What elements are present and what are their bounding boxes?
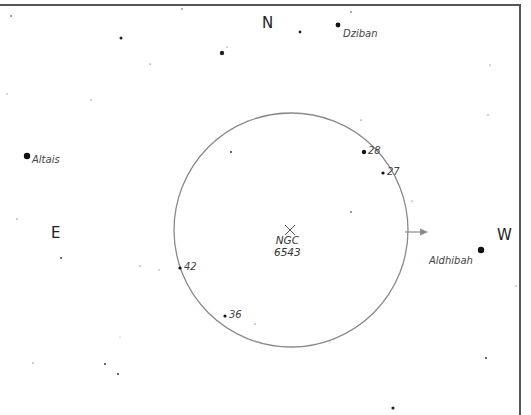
target-name-line2: 6543 <box>274 246 301 258</box>
field-star <box>60 257 62 259</box>
named-star-dziban <box>336 23 341 28</box>
field-star <box>360 119 361 120</box>
field-star <box>159 270 160 271</box>
field-star <box>350 211 352 213</box>
field-star <box>117 373 119 375</box>
star-label-dziban: Dziban <box>343 28 378 39</box>
star-number-label-42: 42 <box>184 261 197 272</box>
field-star <box>7 94 8 95</box>
direction-north-label: N <box>262 14 273 32</box>
field-star <box>485 357 487 359</box>
field-star <box>120 37 123 40</box>
field-stars <box>7 8 517 409</box>
field-star <box>139 265 140 266</box>
star-label-aldhibah: Aldhibah <box>429 255 473 266</box>
field-star <box>412 201 413 202</box>
field-star <box>90 99 91 100</box>
field-star <box>149 63 150 64</box>
field-star <box>10 15 12 17</box>
star-number-label-27: 27 <box>387 166 400 177</box>
chart-frame-right <box>519 4 521 415</box>
field-star <box>254 323 255 324</box>
field-star <box>391 406 394 409</box>
star-label-altais: Altais <box>32 154 60 165</box>
target-name-line1: NGC <box>274 234 301 246</box>
field-star <box>227 47 228 48</box>
field-star <box>230 151 232 153</box>
field-star <box>487 114 488 115</box>
named-star-altais <box>24 153 30 159</box>
field-star <box>32 362 33 363</box>
star-number-label-28: 28 <box>368 145 381 156</box>
chart-frame-top <box>0 4 521 6</box>
numbered-star-27 <box>381 171 384 174</box>
field-star <box>120 337 121 338</box>
numbered-star-28 <box>362 150 366 154</box>
field-star <box>490 65 491 66</box>
direction-west-label: W <box>497 226 512 244</box>
named-star-aldhibah <box>478 247 484 253</box>
target-label: NGC 6543 <box>274 234 301 258</box>
field-star <box>181 8 182 9</box>
field-star <box>299 31 302 34</box>
field-star <box>350 11 351 12</box>
field-star <box>330 342 331 343</box>
numbered-star-36 <box>223 314 226 317</box>
named-stars <box>24 23 484 254</box>
star-chart <box>0 0 531 415</box>
star-number-label-36: 36 <box>229 309 242 320</box>
field-star <box>516 286 517 287</box>
direction-east-label: E <box>51 224 60 242</box>
numbered-star-42 <box>178 266 181 269</box>
field-star <box>220 51 224 55</box>
field-star <box>104 363 106 365</box>
field-star <box>16 218 17 219</box>
